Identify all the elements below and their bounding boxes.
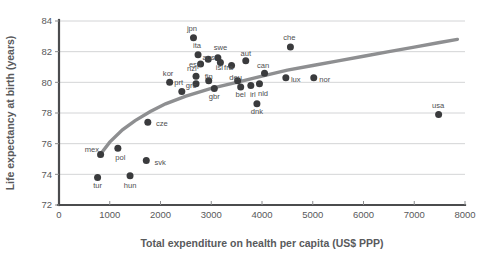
data-point-label-prt: prt <box>174 78 184 87</box>
x-tick-label: 7000 <box>404 209 425 220</box>
data-point-label-irl: irl <box>250 90 256 99</box>
x-tick-label: 1000 <box>99 209 120 220</box>
data-point-label-gbr: gbr <box>209 92 220 101</box>
data-point-can <box>261 70 268 77</box>
y-tick-label: 76 <box>41 138 52 149</box>
data-point-label-grc: grc <box>186 81 197 90</box>
data-point-label-aus: aus <box>203 53 215 62</box>
x-tick-label: 3000 <box>201 209 222 220</box>
x-axis: 010002000300040005000600070008000 <box>56 201 475 220</box>
point-labels: turmexpolhunsvkczekorprtnzlgrcjpnitaespa… <box>85 24 445 189</box>
x-axis-title: Total expenditure on health per capita (… <box>140 237 383 249</box>
x-tick-label: 4000 <box>251 209 272 220</box>
data-point-ita <box>195 51 202 58</box>
data-point-kor <box>166 79 173 86</box>
data-point-prt <box>178 88 185 95</box>
data-point-lux <box>282 74 289 81</box>
x-tick-label: 6000 <box>353 209 374 220</box>
data-point-label-nor: nor <box>319 75 330 84</box>
data-point-label-isl: isl <box>216 63 223 72</box>
data-point-irl <box>247 82 254 89</box>
data-point-nld <box>256 80 263 87</box>
data-point-label-dnk: dnk <box>251 107 263 116</box>
data-point-label-aut: aut <box>240 49 251 58</box>
data-point-label-jpn: jpn <box>186 24 197 33</box>
data-point-nzl <box>193 73 200 80</box>
data-point-label-ita: ita <box>193 41 202 50</box>
data-point-label-swe: swe <box>214 43 228 52</box>
data-point-label-pol: pol <box>115 153 125 162</box>
x-tick-label: 5000 <box>302 209 323 220</box>
data-point-label-hun: hun <box>124 181 137 190</box>
y-tick-label: 72 <box>41 199 52 210</box>
data-point-svk <box>143 157 150 164</box>
x-tick-label: 2000 <box>150 209 171 220</box>
trend-line <box>99 39 457 156</box>
data-point-label-kor: kor <box>163 69 174 78</box>
data-points <box>94 34 442 181</box>
x-tick-label: 8000 <box>454 209 475 220</box>
data-point-pol <box>114 145 121 152</box>
trend-line-path <box>99 39 457 156</box>
x-tick-label: 0 <box>56 209 61 220</box>
data-point-label-svk: svk <box>154 158 166 167</box>
data-point-label-bel: bel <box>236 90 246 99</box>
data-point-label-nld: nld <box>258 89 268 98</box>
data-point-label-esp: esp <box>189 60 201 69</box>
data-point-che <box>287 44 294 51</box>
data-point-label-usa: usa <box>432 101 445 110</box>
data-point-label-cze: cze <box>156 119 168 128</box>
data-point-hun <box>127 172 134 179</box>
y-axis-title: Life expectancy at birth (years) <box>4 36 16 191</box>
scatter-chart: 010002000300040005000600070008000 727476… <box>0 0 485 259</box>
y-tick-label: 74 <box>41 169 52 180</box>
y-tick-label: 82 <box>41 46 52 57</box>
y-tick-label: 78 <box>41 107 52 118</box>
data-point-label-fin: fin <box>205 72 213 81</box>
data-point-cze <box>144 119 151 126</box>
data-point-label-mex: mex <box>85 145 100 154</box>
y-tick-label: 84 <box>41 15 52 26</box>
data-point-label-deu: deu <box>229 73 242 82</box>
y-tick-label: 80 <box>41 77 52 88</box>
y-axis: 72747678808284 <box>41 15 59 210</box>
data-point-label-can: can <box>257 61 269 70</box>
data-point-aut <box>242 57 249 64</box>
data-point-label-tur: tur <box>93 181 102 190</box>
data-point-label-lux: lux <box>291 75 301 84</box>
data-point-usa <box>435 111 442 118</box>
data-point-label-fra: fra <box>224 63 234 72</box>
chart-canvas: 010002000300040005000600070008000 727476… <box>0 0 485 259</box>
data-point-label-che: che <box>283 33 295 42</box>
data-point-nor <box>310 74 317 81</box>
